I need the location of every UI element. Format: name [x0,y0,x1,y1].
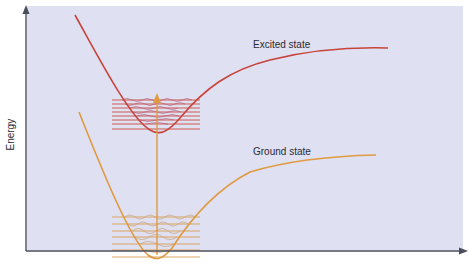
x-axis-arrow-icon [459,248,468,255]
diagram-canvas [0,0,470,274]
y-axis-label: Energy [5,121,16,151]
plot-background [27,6,463,250]
energy-diagram: Energy Excited state Ground state [0,0,470,274]
excited-state-label: Excited state [253,39,310,50]
ground-state-label: Ground state [253,146,311,157]
